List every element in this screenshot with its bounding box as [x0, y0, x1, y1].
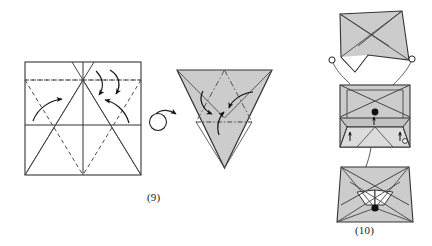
- panel-step10-top: [329, 11, 415, 85]
- caption-step-10: (10): [355, 224, 374, 236]
- panel-crease-pattern-square: [25, 62, 141, 175]
- panel-folded-triangle: [177, 70, 272, 168]
- turn-over-symbol: [150, 110, 177, 130]
- reference-dot-filled-middle: [372, 109, 379, 116]
- turn-over-loop: [150, 114, 167, 131]
- reference-circle-open-left: [329, 57, 335, 63]
- reference-circle-open-middle: [403, 139, 408, 144]
- origami-figure: (9) (10): [0, 0, 432, 246]
- step10-top-notch: [341, 55, 368, 72]
- figure-canvas: [0, 0, 432, 246]
- caption-step-9: (9): [147, 191, 160, 203]
- reference-circle-open-right: [409, 56, 415, 62]
- step10-mid-band: [340, 118, 410, 127]
- panel-step10-bottom: [337, 167, 413, 222]
- reference-dot-filled-bottom: [371, 204, 378, 211]
- connector-left: [333, 63, 350, 84]
- connector-right: [393, 62, 411, 85]
